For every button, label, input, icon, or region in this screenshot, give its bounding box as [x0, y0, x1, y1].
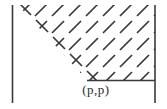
corner-point-label: (p,p) [68, 83, 124, 96]
figure-container: (p,p) [0, 0, 167, 109]
